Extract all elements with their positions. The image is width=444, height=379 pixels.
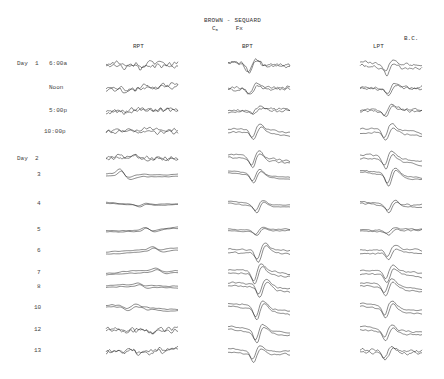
waveform-trace-bpt <box>228 108 290 115</box>
waveform-trace-bpt <box>228 267 290 284</box>
waveform-trace-lpt <box>360 249 422 260</box>
waveform-trace-lpt <box>360 282 422 296</box>
waveform-trace-lpt <box>360 228 422 234</box>
waveform-trace-bpt <box>228 279 290 293</box>
waveform-trace-lpt <box>360 202 422 212</box>
waveform-trace-bpt <box>228 328 290 343</box>
waveform-trace-lpt <box>360 245 422 256</box>
waveform-trace-bpt <box>228 243 290 259</box>
waveform-trace-bpt <box>228 246 290 263</box>
waveform-traces <box>0 0 444 379</box>
waveform-trace-rpt <box>106 283 178 287</box>
waveform-trace-bpt <box>228 346 290 359</box>
waveform-trace-lpt <box>360 128 422 140</box>
waveform-trace-lpt <box>360 325 422 337</box>
waveform-trace-bpt <box>228 172 290 183</box>
waveform-trace-lpt <box>360 265 422 279</box>
waveform-trace-rpt <box>106 307 178 312</box>
waveform-trace-lpt <box>360 124 422 138</box>
waveform-trace-lpt <box>360 328 422 341</box>
waveform-trace-bpt <box>228 201 290 211</box>
waveform-trace-lpt <box>360 154 422 169</box>
waveform-trace-bpt <box>228 282 290 297</box>
waveform-trace-rpt <box>106 346 178 355</box>
waveform-trace-bpt <box>228 106 290 114</box>
waveform-trace-lpt <box>360 301 422 315</box>
waveform-trace-bpt <box>228 304 290 320</box>
waveform-trace-bpt <box>228 83 290 94</box>
waveform-trace-bpt <box>228 202 290 213</box>
waveform-trace-bpt <box>228 61 290 74</box>
waveform-trace-bpt <box>228 324 290 340</box>
waveform-trace-rpt <box>106 304 178 310</box>
waveform-trace-lpt <box>360 64 422 76</box>
waveform-trace-rpt <box>106 169 178 177</box>
waveform-trace-lpt <box>360 304 422 318</box>
waveform-trace-bpt <box>228 349 290 363</box>
waveform-trace-bpt <box>228 154 290 168</box>
waveform-trace-lpt <box>360 106 422 117</box>
waveform-trace-lpt <box>360 348 422 360</box>
waveform-trace-lpt <box>360 85 422 95</box>
waveform-trace-lpt <box>360 200 422 210</box>
waveform-trace-lpt <box>360 104 422 115</box>
waveform-trace-bpt <box>228 127 290 139</box>
waveform-trace-lpt <box>360 170 422 186</box>
waveform-trace-rpt <box>106 83 178 91</box>
waveform-trace-rpt <box>106 64 178 70</box>
